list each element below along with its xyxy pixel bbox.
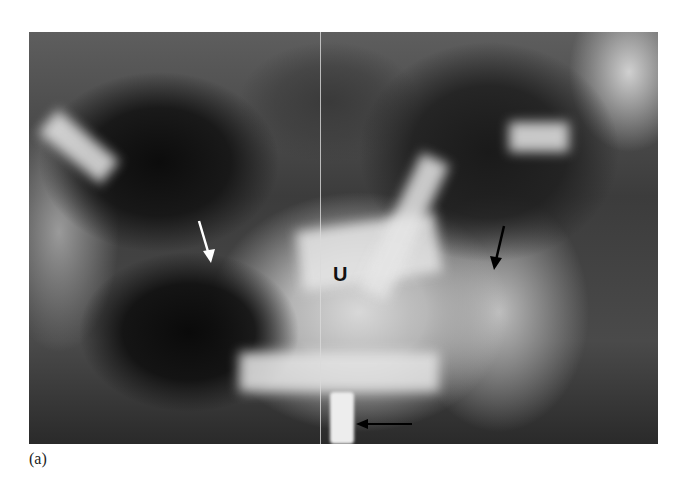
black-arrow-icon [484,222,514,277]
white-arrow-icon [189,217,229,267]
black-horizontal-arrow-icon [354,416,414,432]
uterus-label: U [333,263,347,286]
spine-shadow [330,392,354,444]
image-seam-line [320,32,321,444]
panel-label: (a) [29,450,47,468]
bright-region [39,110,120,184]
bright-region [239,352,439,392]
bright-region [509,122,569,152]
radiograph-image: U [29,32,658,444]
